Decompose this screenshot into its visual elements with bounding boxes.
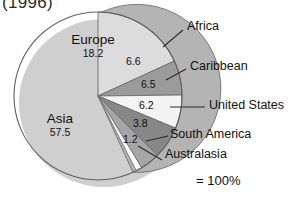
slice-value-africa: 6.6 (126, 56, 141, 67)
total-footnote: = 100% (196, 173, 240, 188)
callout-label-united-states: United States (209, 99, 284, 112)
slice-value-europe: 18.2 (60, 48, 126, 59)
slice-value-caribbean: 6.5 (141, 79, 156, 90)
callout-label-africa: Africa (187, 20, 219, 33)
callout-label-south-america: South America (170, 128, 251, 141)
slice-label-europe-name: Europe (60, 33, 126, 47)
callout-label-australasia: Australasia (165, 148, 227, 161)
pie-chart-figure: (1996) (0, 0, 295, 198)
slice-label-asia-name: Asia (32, 112, 88, 126)
slice-value-australasia: 1.2 (123, 134, 138, 145)
slice-value-asia: 57.5 (32, 127, 88, 138)
slice-value-south-america: 3.8 (133, 118, 148, 129)
callout-label-caribbean: Caribbean (190, 60, 248, 73)
slice-value-united-states: 6.2 (139, 100, 154, 111)
